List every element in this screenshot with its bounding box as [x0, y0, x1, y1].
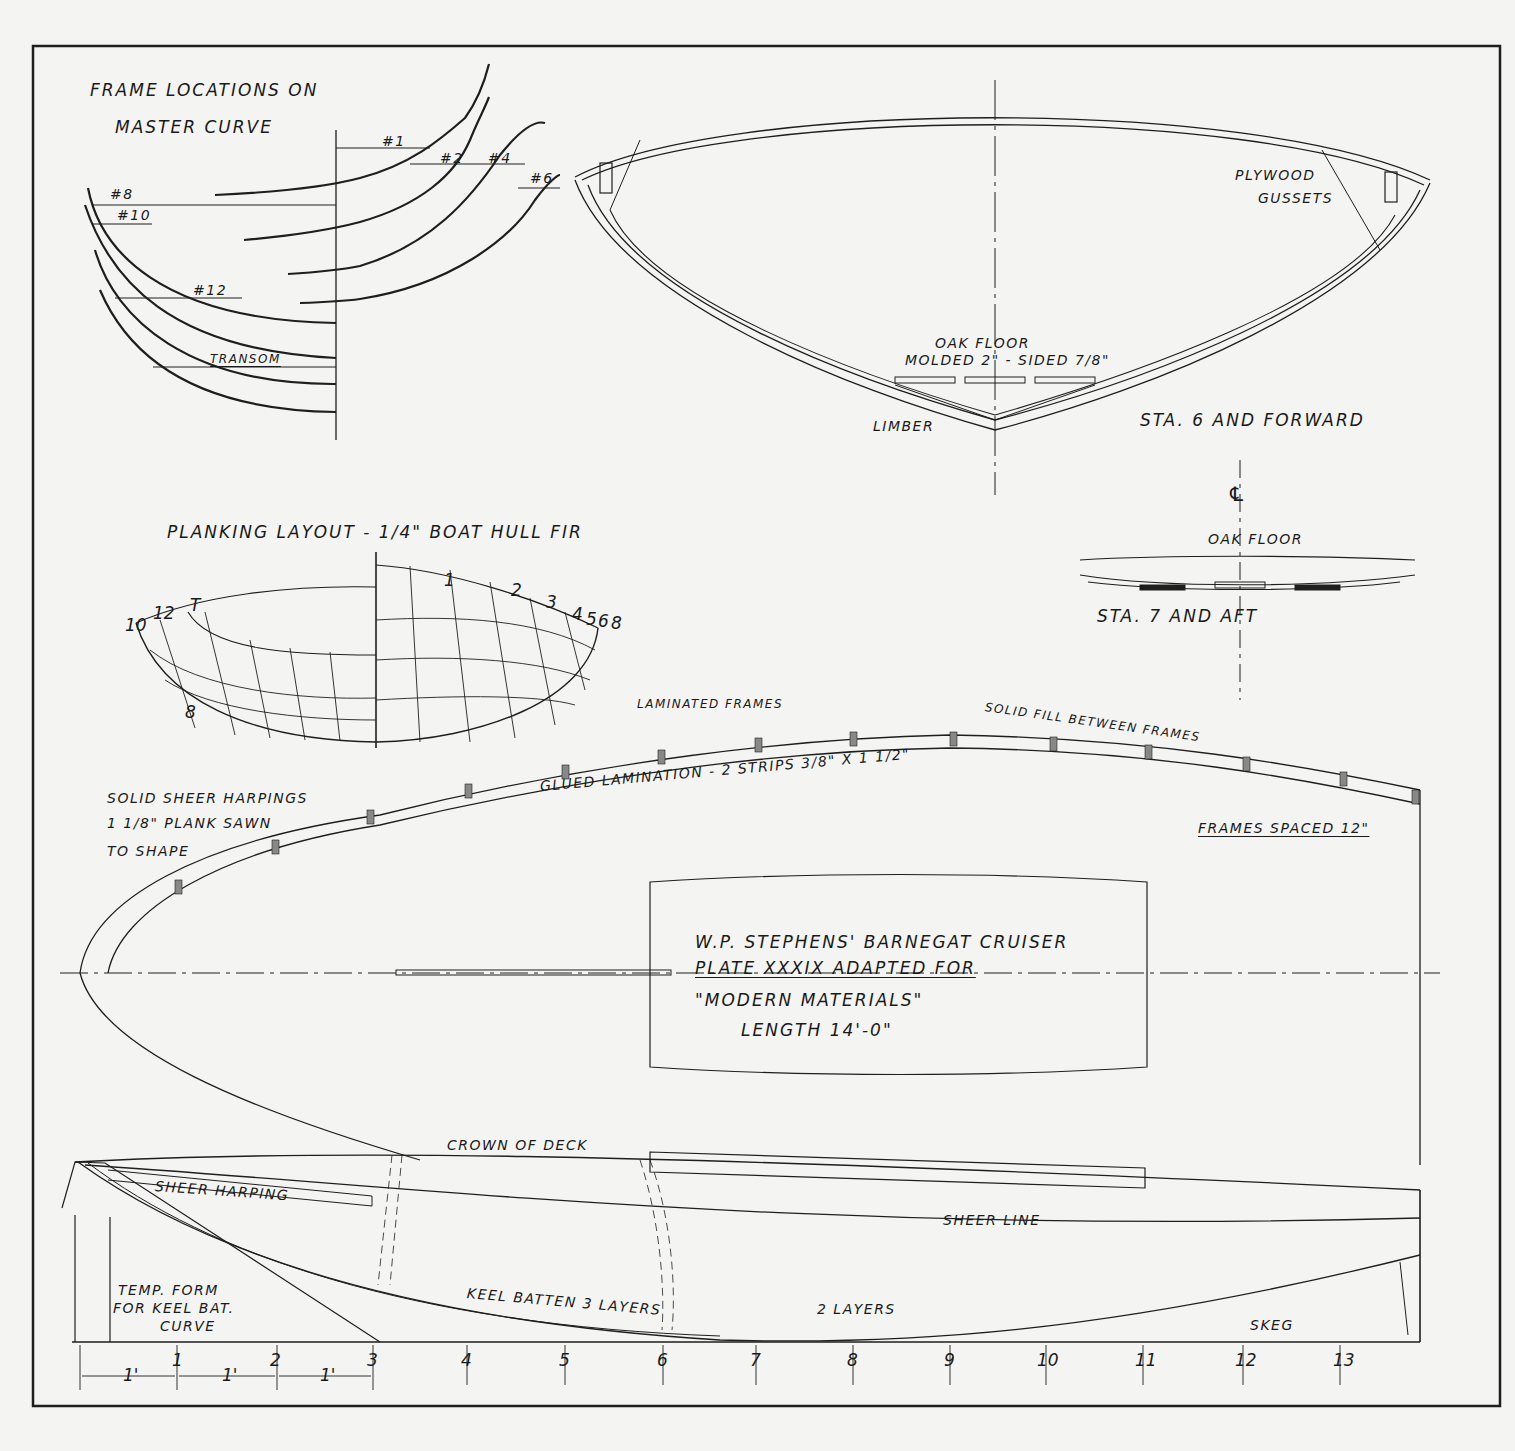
limber-label: LIMBER: [873, 418, 934, 434]
sheet-border: [33, 46, 1500, 1406]
station-7: 7: [750, 1350, 761, 1370]
laminated-frames-label: LAMINATED FRAMES: [637, 697, 783, 711]
temp-form-label-1: TEMP. FORM: [118, 1282, 219, 1298]
station-4: 4: [461, 1350, 472, 1370]
station-13: 13: [1333, 1350, 1355, 1370]
centerline-symbol: ℄: [1230, 482, 1245, 506]
station-3: 3: [367, 1350, 378, 1370]
station-5: 5: [559, 1350, 570, 1370]
title-line-2: PLATE XXXIX ADAPTED FOR: [695, 958, 976, 978]
frame-label-2: #2: [440, 150, 464, 166]
plank-left-10: 10: [125, 615, 147, 635]
plank-right-8: 8: [611, 613, 622, 633]
station-2: 2: [270, 1350, 281, 1370]
planking-layout-drawing: [136, 552, 598, 748]
plank-right-2: 2: [511, 580, 522, 600]
skeg-label: SKEG: [1250, 1317, 1294, 1333]
frames-spaced-label: FRAMES SPACED 12": [1198, 820, 1369, 836]
plank-right-1: 1: [444, 570, 455, 590]
sheer-harpings-label-2: 1 1/8" PLANK SAWN: [107, 815, 272, 831]
two-layers-label: 2 LAYERS: [817, 1301, 896, 1317]
title-line-1: W.P. STEPHENS' BARNEGAT CRUISER: [695, 932, 1068, 952]
frame-label-6: #6: [530, 170, 554, 186]
oak-floor-label: OAK FLOOR: [935, 335, 1030, 351]
station-12: 12: [1235, 1350, 1257, 1370]
plank-right-4: 4: [572, 604, 583, 624]
plank-right-5: 5: [586, 609, 597, 629]
frame-label-10: #10: [117, 207, 151, 223]
frame-label-transom: TRANSOM: [210, 352, 281, 366]
planking-layout-title: PLANKING LAYOUT - 1/4" BOAT HULL FIR: [167, 522, 583, 542]
plank-right-3: 3: [546, 592, 557, 612]
frame-locations-title-1: FRAME LOCATIONS ON: [90, 80, 318, 100]
temp-form-label-2: FOR KEEL BAT.: [113, 1300, 234, 1316]
spacing-label-3: 1': [320, 1365, 336, 1385]
frame-label-4: #4: [488, 150, 512, 166]
station-11: 11: [1135, 1350, 1157, 1370]
frame-locations-title-2: MASTER CURVE: [115, 117, 273, 137]
boat-plan-sheet: FRAME LOCATIONS ON MASTER CURVE #1 #2 #4…: [0, 0, 1515, 1451]
drawing-linework: [0, 0, 1515, 1451]
spacing-label-1: 1': [123, 1365, 139, 1385]
station-9: 9: [944, 1350, 955, 1370]
plank-left-8: 8: [185, 702, 196, 722]
plywood-label-1: PLYWOOD: [1235, 167, 1316, 183]
oak-floor-dims: MOLDED 2" - SIDED 7/8": [905, 352, 1110, 368]
aft-section-drawing: [1080, 460, 1415, 700]
plank-left-t: T: [190, 595, 200, 615]
frame-label-12: #12: [193, 282, 227, 298]
sheer-harpings-label-1: SOLID SHEER HARPINGS: [107, 790, 308, 806]
spacing-label-2: 1': [222, 1365, 238, 1385]
crown-of-deck-label: CROWN OF DECK: [447, 1137, 588, 1153]
frame-label-8: #8: [110, 186, 134, 202]
station-8: 8: [847, 1350, 858, 1370]
sheer-line-label: SHEER LINE: [943, 1212, 1041, 1228]
plank-right-6: 6: [598, 611, 609, 631]
station-10: 10: [1037, 1350, 1059, 1370]
plywood-label-2: GUSSETS: [1258, 190, 1333, 206]
title-line-4: LENGTH 14'-0": [741, 1020, 893, 1040]
forward-section-drawing: [575, 80, 1430, 495]
aft-oak-floor-label: OAK FLOOR: [1208, 531, 1303, 547]
forward-section-caption: STA. 6 AND FORWARD: [1140, 410, 1365, 430]
plank-left-12: 12: [153, 603, 175, 623]
frame-label-1: #1: [382, 133, 406, 149]
title-line-3: "MODERN MATERIALS": [695, 990, 923, 1010]
station-6: 6: [657, 1350, 668, 1370]
sheer-harpings-label-3: TO SHAPE: [107, 843, 189, 859]
aft-section-caption: STA. 7 AND AFT: [1097, 606, 1258, 626]
temp-form-label-3: CURVE: [160, 1318, 216, 1334]
station-1: 1: [172, 1350, 183, 1370]
